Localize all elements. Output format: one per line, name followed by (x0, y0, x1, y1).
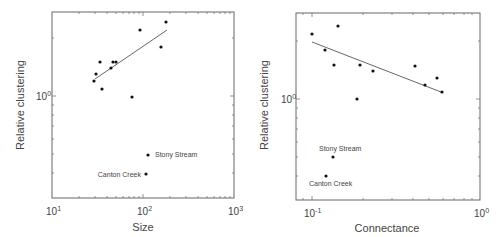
left-chart: 101 102 103 100 Size Relative clustering… (14, 12, 243, 233)
right-chart: 10-1 100 100 Connectance Relative cluste… (258, 13, 489, 234)
right-point-canton-creek (324, 174, 327, 177)
left-xtick-10-3: 103 (228, 205, 243, 217)
right-y-axis-label: Relative clustering (258, 60, 270, 150)
right-ytick-10-0: 100 (281, 93, 296, 105)
right-annotation-canton-creek: Canton Creek (309, 180, 353, 187)
right-point-stony-stream (331, 155, 334, 158)
left-y-ticks (52, 38, 234, 173)
left-plot-frame (52, 12, 234, 198)
left-point-stony-stream (146, 153, 149, 156)
figure: 101 102 103 100 Size Relative clustering… (0, 0, 502, 237)
right-annotation-stony-stream: Stony Stream (319, 145, 362, 153)
left-ytick-10-0: 100 (36, 90, 51, 102)
right-fit-line (312, 42, 441, 92)
right-xtick-10-0: 100 (474, 207, 489, 219)
left-point-canton-creek (144, 172, 147, 175)
right-x-axis-label: Connectance (355, 222, 420, 234)
left-xtick-10-1: 101 (46, 205, 61, 217)
right-y-ticks (296, 41, 480, 176)
left-annotation-canton-creek: Canton Creek (98, 171, 142, 178)
left-y-axis-label: Relative clustering (14, 60, 26, 150)
right-plot-frame (296, 13, 480, 200)
left-xtick-10-2: 102 (137, 205, 152, 217)
right-xtick-10-minus1: 10-1 (304, 207, 321, 219)
right-x-ticks (303, 13, 472, 200)
left-fit-line (95, 30, 167, 79)
left-annotation-stony-stream: Stony Stream (155, 151, 198, 159)
right-data-points (310, 24, 443, 177)
left-x-axis-label: Size (132, 221, 153, 233)
